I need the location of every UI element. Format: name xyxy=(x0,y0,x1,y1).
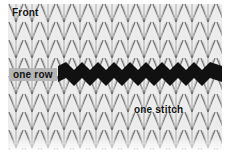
one-row-label: one row xyxy=(9,68,57,81)
bottom-fade xyxy=(8,138,222,152)
one-stitch-label: one stitch xyxy=(134,104,183,115)
front-label: Front xyxy=(12,7,39,18)
